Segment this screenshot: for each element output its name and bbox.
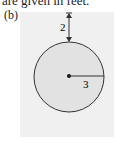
arrow-up-icon [66,13,72,18]
arrow-down-icon [66,37,72,42]
radius-label: 3 [83,78,89,90]
gap-label: 2 [60,21,66,33]
circle-diagram: 2 3 [0,0,116,143]
